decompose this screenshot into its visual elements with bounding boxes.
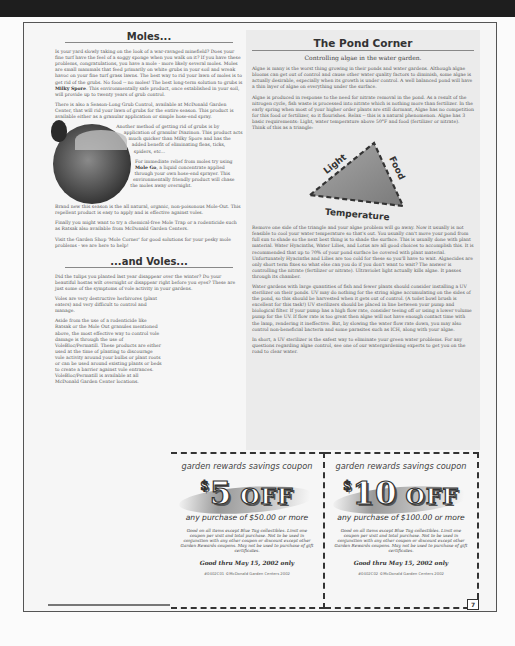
triangle-temperature-label: Temperature <box>325 207 390 223</box>
milky-spore-product: Milky Spore <box>55 86 86 91</box>
voles-paragraph-2: Voles are very destructive herbivores (p… <box>55 296 163 314</box>
pond-paragraph-5: In short, a UV sterilizer is the safest … <box>252 337 474 355</box>
moles-paragraph-6: Finally you might want to try a chemical… <box>55 220 243 232</box>
coupon-amount-number: 10 <box>352 475 397 511</box>
coupon-valid-date: Good thru May 15, 2002 only <box>325 560 477 566</box>
coupon-value: $5OFF <box>200 475 293 511</box>
pond-paragraph-1: Algae is many is the worst thing growing… <box>252 66 474 90</box>
page-number: 7 <box>467 599 479 610</box>
coupon-minimum: any purchase of $100.00 or more <box>325 513 477 522</box>
voles-heading: ...and Voles... <box>55 259 243 265</box>
coupon-5-off[interactable]: garden rewards savings coupon $5OFF any … <box>171 452 325 609</box>
coupon-header: garden rewards savings coupon <box>171 461 323 471</box>
column-bottom-rule <box>48 604 170 606</box>
pond-corner-column: The Pond Corner Controlling algae in the… <box>246 30 480 450</box>
coupon-amount: $10OFF <box>325 475 477 511</box>
coupon-fine-print: Good on all items except Blue Tag collec… <box>179 528 315 553</box>
moles-heading: Moles... <box>55 34 243 40</box>
moles-paragraph-3: Another method of getting rid of grubs i… <box>55 124 243 154</box>
moles-p1-text: Is your yard slowly taking on the look o… <box>55 49 242 84</box>
heading-rule <box>65 42 233 43</box>
coupon-value: $10OFF <box>343 475 459 511</box>
coupon-10-off[interactable]: garden rewards savings coupon $10OFF any… <box>325 452 479 609</box>
moles-paragraph-7: Visit the Garden Shop 'Mole Corner' for … <box>55 237 243 249</box>
moles-paragraph-2: There is also a Season-Long Grub Control… <box>55 102 243 120</box>
pond-paragraph-3: Remove one side of the triangle and your… <box>252 225 474 280</box>
dollar-sign: $ <box>200 479 209 493</box>
coupon-header: garden rewards savings coupon <box>325 461 477 471</box>
coupon-section: garden rewards savings coupon $5OFF any … <box>171 452 479 607</box>
moles-p4-start: For immediate relief from moles try usin… <box>135 159 233 164</box>
coupon-code: #0402C01 ©McDonald Garden Centers 2002 <box>171 571 323 576</box>
algae-triangle-diagram: Light Food Temperature <box>252 135 474 225</box>
scan-top-band <box>0 0 515 17</box>
triangle-icon: Light Food Temperature <box>252 135 474 225</box>
pond-paragraph-2: Algae is produced in response to the nee… <box>252 95 474 132</box>
heading-rule <box>65 267 233 268</box>
coupon-amount: $5OFF <box>171 475 323 511</box>
mole-go-product: Mole Go <box>135 165 156 170</box>
mole-illustration-sky <box>75 130 127 150</box>
pond-corner-heading: The Pond Corner <box>252 40 474 46</box>
coupon-amount-number: 5 <box>210 475 233 511</box>
moles-p3-text: Another method of getting rid of grubs i… <box>116 124 242 153</box>
coupon-fine-print: Good on all items except Blue Tag collec… <box>333 528 469 553</box>
coupon-minimum: any purchase of $50.00 or more <box>171 513 323 522</box>
coupon-off-label: OFF <box>406 483 459 509</box>
dollar-sign: $ <box>343 479 352 493</box>
mole-illustration <box>53 124 131 204</box>
heading-rule <box>252 50 474 51</box>
coupon-code: #0402C02 ©McDonald Garden Centers 2002 <box>325 571 477 576</box>
pond-paragraph-4: Water gardens with large quantities of f… <box>252 284 474 333</box>
moles-paragraph-1: Is your yard slowly taking on the look o… <box>55 49 243 98</box>
pond-subtitle: Controlling algae in the water garden. <box>252 55 474 61</box>
coupon-off-label: OFF <box>240 483 293 509</box>
voles-paragraph-1: Did the tulips you planted last year dis… <box>55 274 243 292</box>
moles-paragraph-5: Brand new this season is the all natural… <box>55 204 243 216</box>
mole-bindle-icon <box>51 120 67 142</box>
voles-paragraph-3: Aside from the use of a rodenticide like… <box>55 318 163 385</box>
coupon-valid-date: Good thru May 15, 2002 only <box>171 560 323 566</box>
moles-voles-column: Moles... Is your yard slowly taking on t… <box>55 30 243 389</box>
